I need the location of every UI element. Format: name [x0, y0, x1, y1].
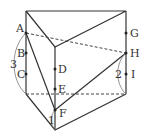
point-f	[54, 109, 57, 112]
point-h	[125, 52, 128, 55]
measure-label-3: 3	[10, 58, 17, 71]
point-d	[54, 68, 57, 71]
label-a: A	[15, 22, 25, 35]
measure-label-2: 2	[115, 68, 122, 81]
point-g	[125, 32, 128, 35]
prism-diagram: A B C D E F G H I 3 2 1	[0, 0, 144, 139]
label-c: C	[17, 68, 25, 81]
label-e: E	[58, 83, 66, 96]
label-b: B	[17, 47, 25, 60]
bottom-front-edges	[26, 94, 126, 130]
label-g: G	[130, 27, 139, 40]
point-i	[125, 73, 128, 76]
label-f: F	[59, 107, 67, 120]
label-h: H	[130, 47, 140, 60]
top-face	[26, 11, 126, 47]
label-i: I	[131, 68, 135, 81]
point-a	[25, 32, 28, 35]
point-e	[54, 88, 57, 91]
segment-f-h	[55, 53, 126, 110]
measure-label-1: 1	[48, 114, 55, 127]
label-d: D	[58, 63, 67, 76]
